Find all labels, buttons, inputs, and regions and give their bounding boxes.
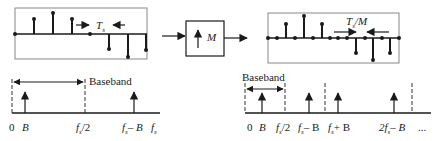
sample-dot — [397, 36, 401, 40]
period-label: Ts/M — [346, 15, 368, 30]
sample-dot — [371, 58, 375, 62]
tick-fs-minus-B: fs– B — [298, 121, 319, 136]
sample-dot — [345, 36, 349, 40]
sample-dot — [266, 36, 270, 40]
sample-dot — [328, 36, 332, 40]
sample-dot — [388, 51, 392, 55]
sample-dot — [51, 11, 55, 15]
sample-dot — [107, 47, 111, 51]
output-spectrum: Baseband 0 B fs/2 fs– B fs+ B 2fs– B ... — [242, 71, 431, 136]
upsampler-block: M — [186, 21, 224, 56]
sample-stems — [13, 11, 148, 59]
output-signal-plot: Ts/M — [266, 13, 401, 63]
tick-0: 0 — [9, 121, 15, 133]
upsample-factor: M — [206, 31, 217, 43]
sample-dot — [293, 36, 297, 40]
tick-0: 0 — [247, 121, 253, 133]
input-spectrum: Baseband 0 B fs/2 fs– B fs — [9, 75, 160, 136]
period-indicator: Ts/M — [334, 15, 389, 32]
tick-fs-half: fs/2 — [276, 121, 290, 136]
sample-dot — [70, 17, 74, 21]
tick-fs-half: fs/2 — [76, 121, 90, 136]
sample-dot — [13, 32, 17, 36]
tick-fs-plus-B: fs+ B — [328, 121, 350, 136]
upsampling-diagram: Ts M Ts/M Baseband 0 B fs/2 fs– B fs — [0, 0, 445, 141]
period-label: Ts — [96, 19, 105, 34]
sample-dot — [144, 48, 148, 52]
sample-dot — [363, 36, 367, 40]
tick-B: B — [259, 121, 266, 133]
sample-dot — [275, 36, 279, 40]
sample-dot — [32, 17, 36, 21]
sample-dot — [354, 51, 358, 55]
upsampler-box — [186, 21, 224, 56]
sample-dot — [302, 14, 306, 18]
period-indicator: Ts — [76, 19, 125, 34]
tick-fs: fs — [151, 121, 157, 136]
sample-dot — [88, 32, 92, 36]
sample-dot — [336, 36, 340, 40]
sample-dot — [284, 22, 288, 26]
tick-ellipsis: ... — [418, 121, 427, 133]
baseband-label: Baseband — [89, 75, 132, 87]
sample-dot — [311, 36, 315, 40]
sample-dot — [320, 22, 324, 26]
tick-fs-minus-B: fs– B — [122, 121, 143, 136]
sample-dot — [126, 55, 130, 59]
input-signal-plot: Ts — [13, 8, 148, 59]
tick-B: B — [22, 121, 29, 133]
tick-2fs-minus-B: 2fs– B — [379, 121, 406, 136]
sample-dot — [380, 36, 384, 40]
baseband-label: Baseband — [242, 71, 285, 83]
